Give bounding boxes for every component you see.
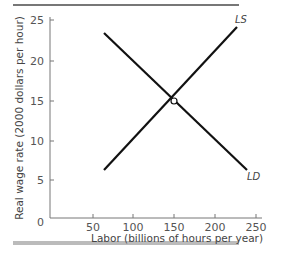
y-tick-label-20: 20 <box>30 55 44 68</box>
chart-canvas: 25 20 15 10 5 0 50 100 150 200 250 Labor… <box>0 0 288 259</box>
y-tick-label-15: 15 <box>30 95 44 108</box>
y-tick-label-10: 10 <box>30 135 44 148</box>
y-tick-label-25: 25 <box>30 14 44 27</box>
equilibrium-point <box>171 98 177 104</box>
y-tick-label-5: 5 <box>37 174 44 187</box>
x-axis-title: Labor (billions of hours per year) <box>91 232 263 244</box>
y-tick-label-0: 0 <box>37 216 44 229</box>
y-ticks <box>50 20 54 180</box>
labor-supply-curve <box>104 27 237 170</box>
x-ticks <box>93 214 256 218</box>
y-axis-title: Real wage rate (2000 dollars per hour) <box>13 16 25 220</box>
ld-label: LD <box>247 171 261 182</box>
top-rule <box>13 4 239 6</box>
ls-label: LS <box>235 14 248 25</box>
